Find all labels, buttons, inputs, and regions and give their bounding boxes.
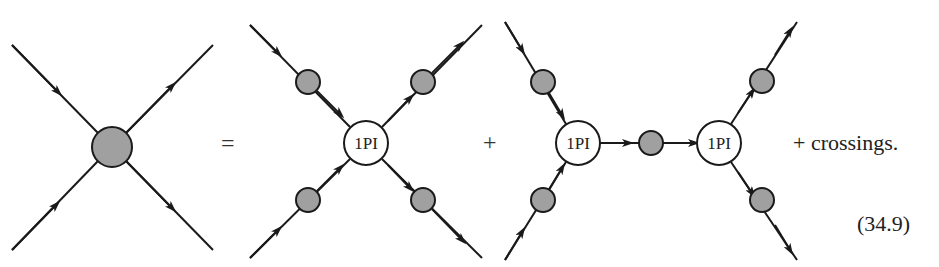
arrow-icon [12,205,56,250]
diagram-full-four-point [12,45,213,250]
diagram-two-1pi: 1PI 1PI [505,22,797,260]
propagator-blob [750,188,774,212]
plus-sign: + [483,129,497,156]
1pi-label: 1PI [707,134,731,153]
crossings-text: + crossings. [793,130,898,156]
diagram-1pi-dressed: 1PI [250,25,482,258]
propagator-blob [296,188,320,212]
equation-number: (34.9) [857,211,910,237]
propagator-blob [750,69,774,93]
1pi-label: 1PI [354,134,378,153]
propagator-blob [411,70,435,94]
propagator-blob [531,70,555,94]
1pi-label: 1PI [566,134,590,153]
arrow-icon [12,45,58,92]
propagator-blob [296,70,320,94]
propagator-blob [411,188,435,212]
propagator-blob [639,131,663,155]
equals-sign: = [221,130,235,157]
propagator-blob [531,188,555,212]
arrow-icon [126,161,172,208]
arrow-icon [126,86,172,133]
full-vertex-blob [92,127,132,167]
